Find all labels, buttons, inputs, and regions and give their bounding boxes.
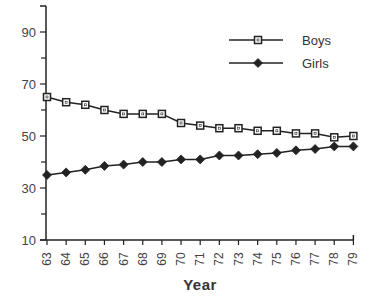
x-tick-label: 64 bbox=[59, 252, 73, 266]
x-tick-label: 72 bbox=[212, 252, 226, 266]
marker-center bbox=[218, 127, 220, 129]
marker-center bbox=[84, 104, 86, 106]
y-tick-label: 70 bbox=[22, 77, 36, 92]
y-tick-label: 90 bbox=[22, 25, 36, 40]
filled-diamond-marker bbox=[349, 142, 358, 151]
series-line bbox=[47, 97, 353, 137]
marker-center bbox=[352, 135, 354, 137]
filled-diamond-marker bbox=[62, 168, 71, 177]
filled-diamond-marker bbox=[215, 151, 224, 160]
filled-diamond-marker bbox=[177, 155, 186, 164]
filled-diamond-marker bbox=[254, 59, 263, 68]
y-axis-ticks: 1030507090 bbox=[22, 25, 46, 248]
y-tick-label: 30 bbox=[22, 181, 36, 196]
x-tick-label: 77 bbox=[308, 252, 322, 266]
legend-item-girls: Girls bbox=[229, 56, 329, 71]
y-tick-label: 50 bbox=[22, 129, 36, 144]
legend: BoysGirls bbox=[229, 33, 331, 71]
filled-diamond-marker bbox=[291, 146, 300, 155]
x-axis-ticks: 6364656667686970717273747576777879 bbox=[40, 240, 360, 266]
marker-center bbox=[180, 122, 182, 124]
marker-center bbox=[257, 39, 259, 41]
marker-center bbox=[161, 113, 163, 115]
series-boys bbox=[44, 94, 357, 141]
legend-label: Boys bbox=[302, 33, 331, 48]
filled-diamond-marker bbox=[330, 142, 339, 151]
y-tick-label: 10 bbox=[22, 233, 36, 248]
filled-diamond-marker bbox=[138, 158, 147, 167]
x-tick-label: 69 bbox=[155, 252, 169, 266]
filled-diamond-marker bbox=[100, 161, 109, 170]
filled-diamond-marker bbox=[234, 151, 243, 160]
marker-center bbox=[199, 125, 201, 127]
marker-center bbox=[46, 96, 48, 98]
marker-center bbox=[333, 136, 335, 138]
filled-diamond-marker bbox=[272, 148, 281, 157]
marker-center bbox=[257, 130, 259, 132]
x-tick-label: 74 bbox=[251, 252, 265, 266]
x-tick-label: 79 bbox=[346, 252, 360, 266]
filled-diamond-marker bbox=[311, 145, 320, 154]
x-tick-label: 65 bbox=[78, 252, 92, 266]
marker-center bbox=[123, 113, 125, 115]
x-tick-label: 66 bbox=[97, 252, 111, 266]
x-tick-label: 76 bbox=[289, 252, 303, 266]
marker-center bbox=[295, 132, 297, 134]
x-tick-label: 67 bbox=[117, 252, 131, 266]
filled-diamond-marker bbox=[157, 158, 166, 167]
x-tick-label: 78 bbox=[327, 252, 341, 266]
x-tick-label: 71 bbox=[193, 252, 207, 266]
filled-diamond-marker bbox=[43, 171, 52, 180]
legend-label: Girls bbox=[302, 56, 329, 71]
marker-center bbox=[65, 101, 67, 103]
line-chart: 1030507090 63646566676869707172737475767… bbox=[0, 0, 380, 305]
legend-item-boys: Boys bbox=[229, 33, 331, 48]
marker-center bbox=[238, 127, 240, 129]
series-lines bbox=[43, 94, 358, 180]
marker-center bbox=[142, 113, 144, 115]
filled-diamond-marker bbox=[81, 165, 90, 174]
series-girls bbox=[43, 142, 358, 180]
x-tick-label: 73 bbox=[232, 252, 246, 266]
x-tick-label: 68 bbox=[136, 252, 150, 266]
x-tick-label: 63 bbox=[40, 252, 54, 266]
marker-center bbox=[314, 132, 316, 134]
filled-diamond-marker bbox=[253, 150, 262, 159]
x-tick-label: 75 bbox=[270, 252, 284, 266]
filled-diamond-marker bbox=[119, 160, 128, 169]
marker-center bbox=[276, 130, 278, 132]
x-axis-title: Year bbox=[183, 276, 217, 293]
x-tick-label: 70 bbox=[174, 252, 188, 266]
filled-diamond-marker bbox=[196, 155, 205, 164]
marker-center bbox=[103, 109, 105, 111]
